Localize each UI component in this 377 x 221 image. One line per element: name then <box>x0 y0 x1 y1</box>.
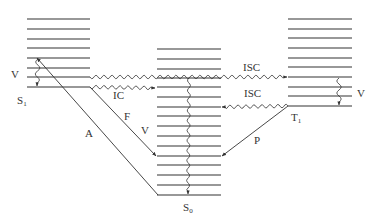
vib-relax-t1-wavy-arrow <box>337 78 341 105</box>
label-p: P <box>254 134 260 146</box>
isc-t1-s0-wavy-arrow <box>222 104 288 108</box>
label-s1: S1 <box>17 94 27 108</box>
label-isc-bottom: ISC <box>244 87 261 99</box>
label-isc-top: ISC <box>243 61 260 73</box>
label-v-t1: V <box>357 87 365 99</box>
phosphorescence-arrow <box>222 106 288 156</box>
label-v-s0: V <box>141 124 149 136</box>
s1-energy-levels <box>27 19 90 87</box>
vib-relax-s1-wavy-arrow <box>35 59 40 86</box>
label-t1: T1 <box>291 111 302 125</box>
label-v-s1: V <box>11 68 19 80</box>
label-a: A <box>85 127 93 139</box>
t1-energy-levels <box>288 19 352 106</box>
label-ic: IC <box>113 89 124 101</box>
jablonski-diagram: V S1 IC ISC ISC V T1 F V A P S0 <box>0 0 377 221</box>
label-f: F <box>124 110 130 122</box>
s0-energy-levels <box>157 49 221 195</box>
label-s0: S0 <box>183 201 193 215</box>
